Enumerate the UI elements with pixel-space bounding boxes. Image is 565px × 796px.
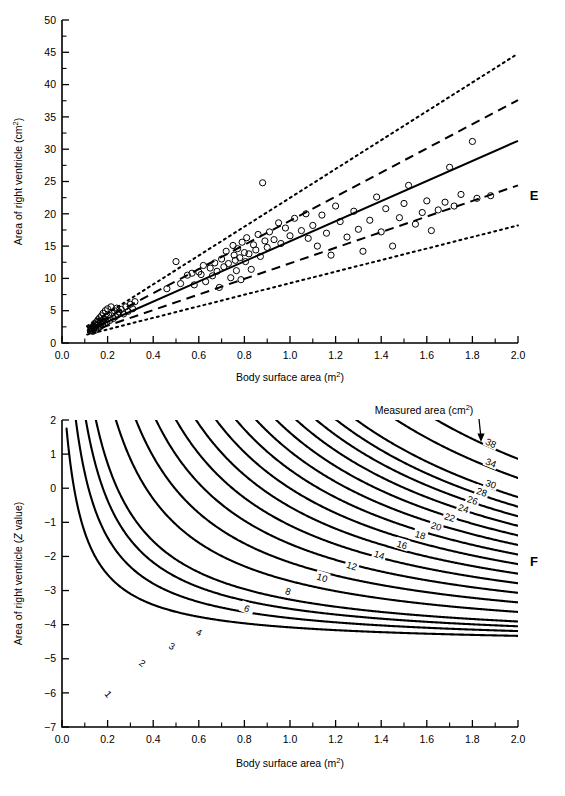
y-tick-label: −4 [44, 618, 56, 630]
data-point [260, 180, 266, 186]
panel-e-axes [62, 20, 518, 343]
panel-f-y-axis-title: Area of right ventricle (Z value) [12, 502, 24, 646]
y-tick-label: 50 [44, 14, 56, 26]
data-point [328, 252, 334, 258]
y-tick-label: 20 [44, 208, 56, 220]
data-point [262, 238, 268, 244]
data-point [319, 212, 325, 218]
contour-line-1 [67, 429, 518, 636]
panel-f-y-ticks: 210−1−2−3−4−5−6−7 [44, 414, 69, 733]
x-tick-label: 1.4 [374, 733, 389, 745]
y-tick-label: 2 [50, 414, 56, 426]
panel-f-plot: 12346810121416182022242628303438210−1−2−… [12, 396, 538, 769]
panel-f-x-axis-title: Body surface area (m2) [236, 756, 344, 769]
data-point [298, 227, 304, 233]
data-point [271, 237, 277, 243]
data-point [458, 191, 464, 197]
x-tick-label: 1.6 [419, 349, 434, 361]
data-point [248, 266, 254, 272]
y-tick-label: 30 [44, 143, 56, 155]
data-point [360, 248, 366, 254]
y-tick-label: 15 [44, 240, 56, 252]
measured-area-label: Measured area (cm2) [375, 403, 474, 416]
reference-line-mean [87, 141, 518, 331]
data-point [367, 217, 373, 223]
x-tick-label: 1.2 [328, 349, 343, 361]
x-tick-label: 1.8 [465, 349, 480, 361]
panel-f-svg: 12346810121416182022242628303438210−1−2−… [0, 396, 565, 796]
x-tick-label: 0.4 [146, 733, 161, 745]
y-tick-label: 45 [44, 46, 56, 58]
panel-e-reference-lines [87, 54, 518, 335]
data-point [228, 275, 234, 281]
data-point [233, 268, 239, 274]
panel-e-x-axis-title: Body surface area (m2) [236, 370, 344, 383]
x-tick-label: 2.0 [511, 349, 526, 361]
data-point [287, 233, 293, 239]
x-tick-label: 0.0 [55, 733, 70, 745]
data-point [442, 199, 448, 205]
y-tick-label: −5 [44, 652, 56, 664]
panel-e-scatter: 051015202530354045500.00.20.40.60.81.01.… [0, 0, 565, 396]
data-point [412, 221, 418, 227]
data-point [447, 164, 453, 170]
y-tick-label: −7 [44, 721, 56, 733]
panel-e-y-ticks: 05101520253035404550 [44, 14, 69, 349]
data-point [225, 260, 231, 266]
x-tick-label: 2.0 [511, 733, 526, 745]
data-point [212, 260, 218, 266]
x-tick-label: 0.8 [237, 349, 252, 361]
data-point [173, 259, 179, 265]
data-point [291, 215, 297, 221]
reference-line-upper-outer [87, 54, 518, 327]
data-point [435, 207, 441, 213]
data-point [314, 243, 320, 249]
panel-e-data-points [87, 138, 493, 334]
x-tick-label: 0.6 [191, 733, 206, 745]
data-point [355, 226, 361, 232]
y-tick-label: 5 [50, 304, 56, 316]
reference-line-lower-inner [87, 185, 518, 332]
reference-line-lower-outer [87, 225, 518, 334]
data-point [390, 243, 396, 249]
contour-line-6 [106, 396, 518, 612]
y-tick-label: −1 [44, 516, 56, 528]
y-tick-label: 25 [44, 175, 56, 187]
data-point [276, 220, 282, 226]
y-tick-label: 40 [44, 78, 56, 90]
data-point [282, 225, 288, 231]
x-tick-label: 0.0 [55, 349, 70, 361]
x-tick-label: 0.2 [100, 349, 115, 361]
data-point [305, 235, 311, 241]
data-point [177, 280, 183, 286]
data-point [310, 222, 316, 228]
y-tick-label: 35 [44, 111, 56, 123]
data-point [207, 265, 213, 271]
data-point [424, 198, 430, 204]
data-point [255, 231, 261, 237]
data-point [401, 200, 407, 206]
panel-f-contours: 12346810121416182022242628303438210−1−2−… [0, 396, 565, 796]
data-point [164, 286, 170, 292]
data-point [396, 215, 402, 221]
data-point [253, 247, 259, 253]
panel-e-y-axis-title: Area of right ventricle (cm2) [11, 118, 24, 245]
data-point [323, 230, 329, 236]
y-tick-label: 1 [50, 448, 56, 460]
data-point [344, 234, 350, 240]
x-tick-label: 0.2 [100, 733, 115, 745]
x-tick-label: 1.0 [283, 733, 298, 745]
y-tick-label: 0 [50, 337, 56, 349]
data-point [405, 182, 411, 188]
x-tick-label: 0.4 [146, 349, 161, 361]
panel-e-svg: 051015202530354045500.00.20.40.60.81.01.… [0, 0, 565, 396]
y-tick-label: −2 [44, 550, 56, 562]
panel-f-x-ticks: 0.00.20.40.60.81.01.21.41.61.82.0 [55, 720, 526, 745]
data-point [264, 244, 270, 250]
x-tick-label: 1.8 [465, 733, 480, 745]
data-point [200, 262, 206, 268]
data-point [474, 195, 480, 201]
x-tick-label: 1.2 [328, 733, 343, 745]
y-tick-label: −3 [44, 584, 56, 596]
x-tick-label: 1.0 [283, 349, 298, 361]
